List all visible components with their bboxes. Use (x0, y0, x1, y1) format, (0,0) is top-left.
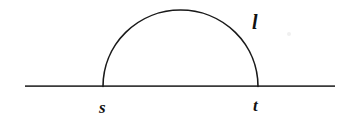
vertex-label-s: s (99, 99, 106, 116)
diagram-graphics (0, 0, 357, 127)
vertex-label-t: t (253, 97, 258, 114)
diagram-canvas: s t l (0, 0, 357, 127)
arc-edge (103, 10, 258, 87)
arc-label-l: l (252, 12, 258, 32)
scan-artifact (287, 32, 291, 36)
